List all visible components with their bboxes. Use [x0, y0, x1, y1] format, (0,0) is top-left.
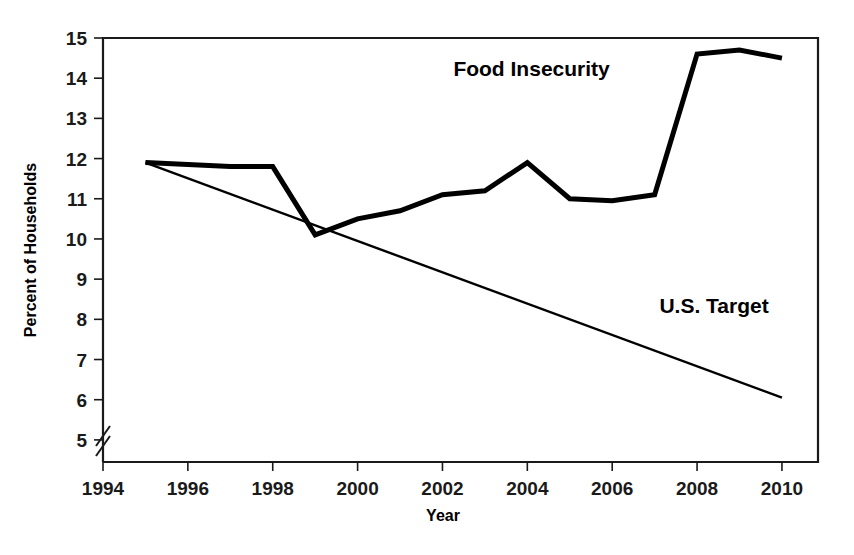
food-insecurity-line-chart: 56789101112131415 1994199619982000200220… [0, 0, 854, 555]
y-tick-label: 7 [76, 350, 87, 371]
y-tick-label: 9 [76, 269, 87, 290]
y-tick-label: 12 [66, 149, 87, 170]
chart-container: 56789101112131415 1994199619982000200220… [0, 0, 854, 555]
x-tick-label: 2000 [336, 478, 378, 499]
y-axis-title: Percent of Households [22, 163, 39, 337]
x-tick-label: 2008 [676, 478, 718, 499]
y-tick-label: 8 [76, 309, 87, 330]
annotation-label: Food Insecurity [453, 57, 610, 80]
x-tick-label: 1994 [82, 478, 125, 499]
annotation-label: U.S. Target [659, 294, 768, 317]
y-tick-label: 11 [67, 189, 88, 210]
x-axis-title: Year [426, 507, 460, 524]
chart-background [0, 0, 854, 555]
y-tick-label: 15 [66, 28, 88, 49]
x-tick-label: 2004 [506, 478, 549, 499]
x-tick-label: 2006 [591, 478, 633, 499]
y-tick-label: 5 [76, 430, 87, 451]
x-tick-label: 1996 [167, 478, 209, 499]
y-tick-label: 14 [66, 68, 88, 89]
x-tick-label: 2002 [421, 478, 463, 499]
x-tick-label: 2010 [761, 478, 803, 499]
y-tick-label: 6 [76, 390, 87, 411]
y-tick-label: 10 [66, 229, 87, 250]
y-tick-label: 13 [66, 108, 87, 129]
x-tick-label: 1998 [252, 478, 294, 499]
